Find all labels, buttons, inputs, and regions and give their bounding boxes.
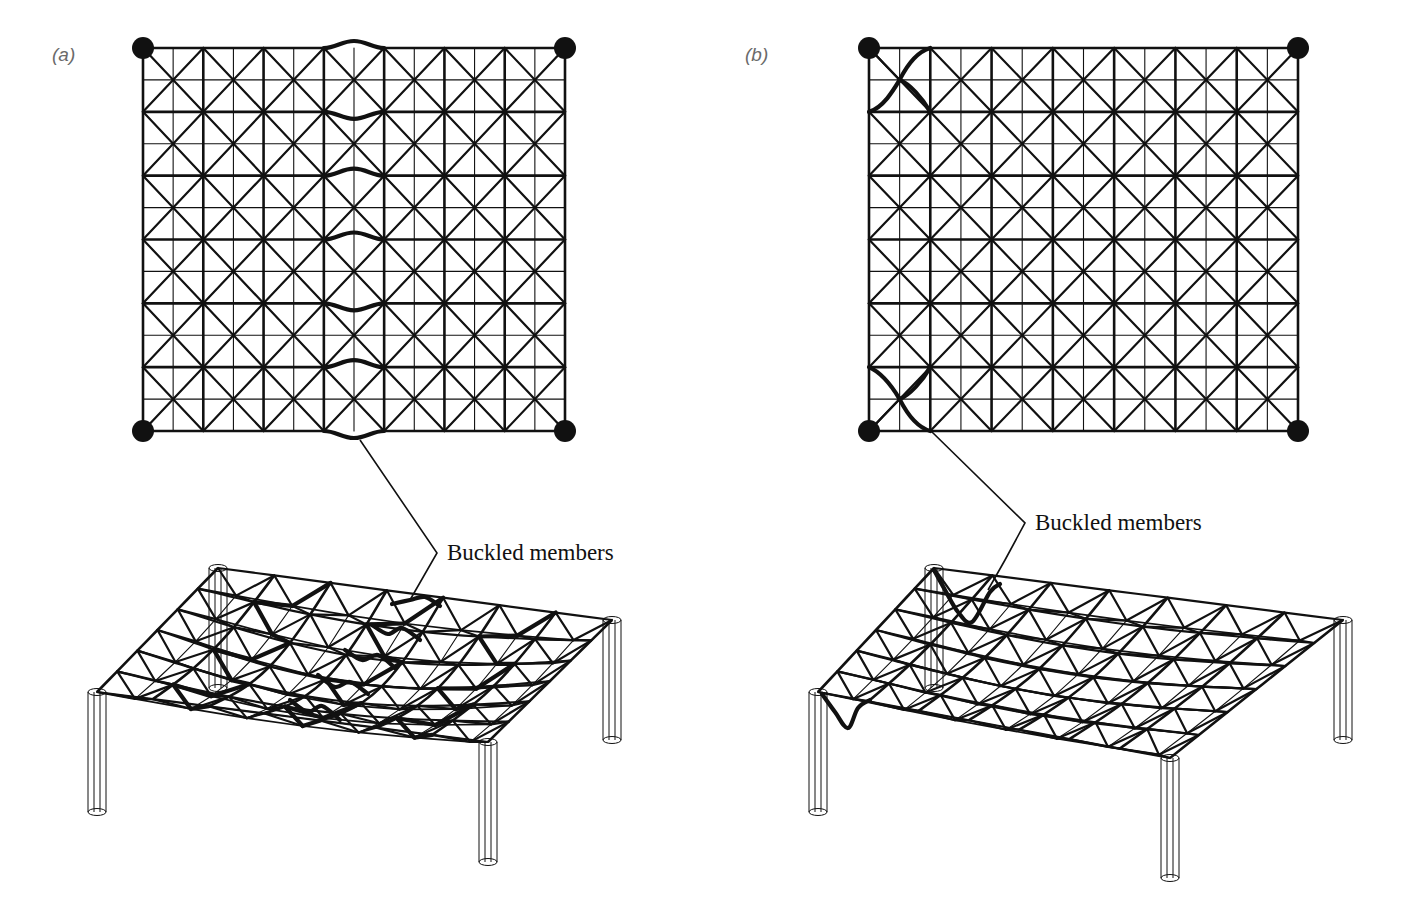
panel-a-callout-text: Buckled members (447, 540, 614, 566)
bottom-chord (1078, 649, 1102, 674)
support-node (1287, 420, 1309, 442)
diagonal-member (1062, 645, 1078, 674)
diagonal-member (364, 662, 402, 684)
diagonal-member (461, 605, 499, 630)
diagonal-member (1122, 704, 1135, 728)
diagonal-member (1039, 669, 1054, 696)
diagonal-member (1187, 712, 1228, 733)
bottom-chord (990, 604, 1011, 629)
panel-b-3d-view (809, 565, 1352, 882)
diagonal-member (1226, 605, 1242, 634)
panel-b-callout-leader (931, 431, 1025, 590)
diagonal-member (1118, 654, 1133, 681)
diagonal-member (990, 610, 1029, 629)
diagonal-member (497, 639, 535, 664)
support-node (132, 37, 154, 59)
panel-b-label: (b) (745, 44, 768, 66)
diagonal-member (1046, 619, 1086, 640)
bottom-chord (497, 636, 518, 664)
diagonal-member (992, 575, 1011, 604)
diagonal-member (873, 665, 910, 680)
diagonal-member (1078, 654, 1118, 675)
diagonal-member (1086, 619, 1102, 649)
support-node (132, 420, 154, 442)
bottom-chord (1023, 640, 1046, 665)
column-front-right (1161, 755, 1179, 882)
diagonal-member (953, 575, 992, 595)
support-node (554, 420, 576, 442)
diagonal-member (288, 679, 326, 695)
diagonal-member (1174, 659, 1188, 685)
panel-b-callout-text: Buckled members (1035, 510, 1202, 536)
diagonal-member (1184, 605, 1226, 628)
diagonal-member (1011, 583, 1051, 604)
column-front-left (88, 689, 106, 816)
diagonal-member (331, 583, 349, 616)
callout-leader-line (931, 431, 1025, 590)
diagonal-member (1001, 669, 1040, 686)
bottom-chord (420, 662, 440, 689)
diagonal-member (458, 665, 476, 689)
diagonal-member (349, 590, 387, 615)
bottom-chord (1001, 665, 1024, 687)
callout-leader-line (360, 440, 437, 600)
diagonal-member (1147, 729, 1159, 755)
diagonal-member (1109, 590, 1126, 620)
column-back-right (1334, 617, 1352, 744)
bottom-chord (853, 680, 873, 699)
diagonal-member (310, 614, 328, 647)
buckled-member (324, 431, 384, 438)
diagonal-member (556, 613, 574, 641)
column-front-left (809, 689, 827, 816)
diagonal-member (1096, 722, 1108, 747)
column-back-left (209, 565, 227, 692)
diagonal-member (1029, 610, 1046, 640)
diagonal-member (1051, 583, 1069, 613)
top-chord (153, 575, 274, 699)
panel-a-plan-view (132, 37, 576, 442)
diagonal-member (441, 637, 479, 662)
bottom-chord (968, 629, 989, 652)
bottom-chord (947, 652, 968, 673)
column-back-right (603, 617, 621, 744)
panel-b-plan-view (858, 37, 1309, 442)
diagonal-member (1126, 598, 1167, 621)
diagonal-member (1093, 677, 1107, 703)
diagonal-member (402, 662, 420, 689)
diagonal-member (853, 683, 889, 699)
diagonal-member (972, 599, 990, 629)
support-node (858, 420, 880, 442)
top-chord (218, 568, 612, 620)
diagonal-member (535, 639, 553, 663)
support-node (554, 37, 576, 59)
diagonal-member (968, 635, 1007, 652)
diagonal-member (236, 575, 274, 595)
diagonal-member (1257, 638, 1271, 664)
diagonal-member (292, 583, 330, 606)
panel-a-label: (a) (52, 44, 75, 66)
diagonal-member (1148, 683, 1162, 708)
diagonal-member (1102, 627, 1143, 649)
bottom-chord (925, 674, 946, 693)
diagonal-member (308, 655, 346, 674)
figure: (a) (b) Buckled members Buckled members (0, 0, 1405, 898)
diagonal-member (1162, 687, 1203, 708)
diagonal-member (1175, 708, 1187, 733)
figure-canvas (0, 0, 1405, 898)
column-front-right (479, 739, 497, 866)
panel-a-3d-view (88, 565, 621, 866)
diagonal-member (1023, 645, 1062, 664)
diagonal-member (499, 605, 517, 635)
diagonal-member (479, 637, 497, 664)
diagonal-member (1285, 613, 1300, 641)
diagonal-member (985, 658, 1001, 686)
diagonal-member (387, 590, 405, 623)
diagonal-member (1007, 635, 1023, 665)
diagonal-member (913, 623, 951, 639)
diagonal-member (1202, 687, 1215, 712)
diagonal-member (947, 658, 985, 674)
support-node (1287, 37, 1309, 59)
diagonal-member (1069, 590, 1110, 612)
diagonal-member (1168, 598, 1184, 628)
diagonal-member (1230, 663, 1244, 688)
